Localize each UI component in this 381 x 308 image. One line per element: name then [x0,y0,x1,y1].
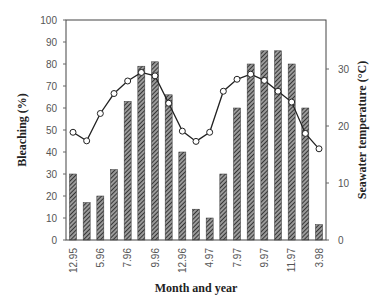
bleaching-bar [220,174,227,240]
right-tick-label: 20 [338,121,350,132]
bleaching-temperature-chart: 0102030405060708090100 0102030 12.955.96… [0,0,381,308]
temperature-marker [234,76,240,82]
left-tick-label: 10 [46,213,58,224]
left-tick-label: 50 [46,125,58,136]
temperature-marker [138,69,144,75]
x-axis-ticks: 12.955.967.969.9612.964.977.979.9711.973… [68,248,325,273]
bleaching-bar [165,95,172,240]
x-tick-label: 5.96 [95,248,106,268]
bleaching-bar [152,62,159,240]
left-tick-label: 90 [46,37,58,48]
x-tick-label: 12.96 [177,248,188,273]
left-tick-label: 40 [46,147,58,158]
temperature-marker [97,110,103,116]
bleaching-bar [288,64,295,240]
plot-frame [66,20,326,240]
left-axis-title: Bleaching (%) [15,93,29,167]
bleaching-bar [138,66,145,240]
bleaching-bar [179,152,186,240]
left-tick-label: 60 [46,103,58,114]
temperature-marker [275,88,281,94]
left-tick-label: 30 [46,169,58,180]
x-tick-label: 4.97 [204,248,215,268]
temperature-marker [111,91,117,97]
left-tick-label: 100 [40,15,57,26]
right-axis-ticks: 0102030 [326,64,350,246]
right-tick-label: 30 [338,64,350,75]
temperature-marker [193,138,199,144]
x-tick-label: 9.96 [150,248,161,268]
x-tick-label: 3.98 [314,248,325,268]
temperature-marker [220,88,226,94]
x-tick-label: 12.95 [68,248,79,273]
temperature-marker [152,73,158,79]
bleaching-bar [70,174,77,240]
x-tick-label: 9.97 [259,248,270,268]
bleaching-bar [234,108,241,240]
left-tick-label: 70 [46,81,58,92]
bleaching-bars [70,51,323,240]
bleaching-bar [316,225,323,240]
bleaching-bar [275,51,282,240]
x-tick-label: 7.97 [232,248,243,268]
right-tick-label: 0 [338,235,344,246]
right-tick-label: 10 [338,178,350,189]
temperature-marker [125,78,131,84]
temperature-marker [70,129,76,135]
left-axis-ticks: 0102030405060708090100 [40,15,66,246]
temperature-marker [179,128,185,134]
temperature-line [70,69,322,151]
temperature-marker [261,77,267,83]
bleaching-bar [206,218,213,240]
temperature-marker [316,146,322,152]
left-tick-label: 20 [46,191,58,202]
temperature-marker [207,129,213,135]
x-axis-title: Month and year [155,281,238,295]
temperature-marker [166,100,172,106]
bleaching-bar [83,203,90,240]
bleaching-bar [247,64,254,240]
bleaching-bar [97,196,104,240]
x-tick-label: 7.96 [122,248,133,268]
x-tick-label: 11.97 [286,248,297,273]
bleaching-bar [111,170,118,240]
bleaching-bar [193,209,200,240]
temperature-marker [289,99,295,105]
temperature-marker [302,130,308,136]
temperature-marker [84,138,90,144]
left-tick-label: 0 [51,235,57,246]
bleaching-bar [124,101,131,240]
left-tick-label: 80 [46,59,58,70]
temperature-marker [248,71,254,77]
right-axis-title: Seawater temperature (°C) [355,61,369,199]
